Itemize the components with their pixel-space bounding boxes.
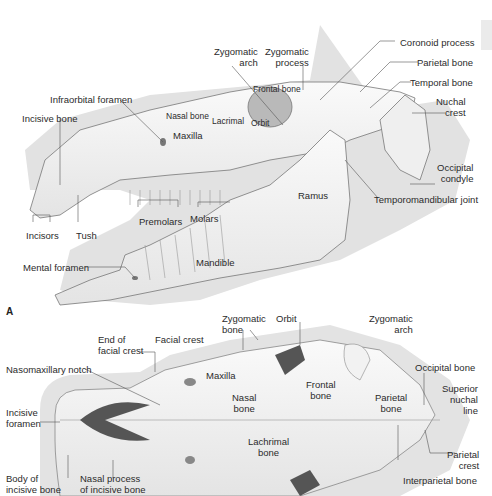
panel-label-a: A bbox=[6, 306, 13, 317]
label-tush: Tush bbox=[76, 230, 97, 241]
label-ramus: Ramus bbox=[298, 190, 328, 201]
label-incisive-foramen: Incisive foramen bbox=[6, 407, 41, 429]
label-parietal-bone: Parietal bone bbox=[417, 57, 473, 68]
label-body-of-incisive-bone: Body of incisive bone bbox=[6, 473, 61, 495]
label-incisive-bone: Incisive bone bbox=[22, 113, 77, 124]
label-occipital-bone: Occipital bone bbox=[415, 362, 475, 373]
label-nasomaxillary-notch: Nasomaxillary notch bbox=[6, 364, 92, 375]
label-zygomatic-process: Zygomatic process bbox=[265, 46, 309, 68]
label-nasal-bone-dorsal: Nasal bone bbox=[232, 392, 256, 414]
label-end-of-facial-crest: End of facial crest bbox=[98, 334, 143, 356]
label-temporal-bone: Temporal bone bbox=[410, 77, 473, 88]
label-lacrimal: Lacrimal bbox=[212, 116, 244, 127]
label-infraorbital-foramen: Infraorbital foramen bbox=[50, 94, 132, 105]
label-temporomandibular-joint: Temporomandibular joint bbox=[374, 194, 478, 205]
label-incisors: Incisors bbox=[26, 230, 59, 241]
label-coronoid-process: Coronoid process bbox=[400, 37, 474, 48]
label-superior-nuchal-line: Superior nuchal line bbox=[442, 383, 478, 416]
label-orbit-dorsal: Orbit bbox=[276, 313, 297, 324]
label-lachrimal-bone: Lachrimal bone bbox=[248, 436, 289, 458]
label-occipital-condyle: Occipital condyle bbox=[437, 162, 473, 184]
label-frontal-bone-dorsal: Frontal bone bbox=[306, 379, 336, 401]
label-mental-foramen: Mental foramen bbox=[23, 262, 89, 273]
label-nuchal-crest: Nuchal crest bbox=[436, 96, 466, 118]
label-zygomatic-bone: Zygomatic bone bbox=[222, 313, 266, 335]
label-mandible: Mandible bbox=[196, 257, 235, 268]
label-molars: Molars bbox=[190, 213, 219, 224]
label-zygomatic-arch: Zygomatic arch bbox=[214, 46, 258, 68]
label-zygomatic-arch-dorsal: Zygomatic arch bbox=[369, 313, 413, 335]
label-maxilla: Maxilla bbox=[173, 130, 203, 141]
label-nasal-bone: Nasal bone bbox=[166, 111, 209, 122]
label-frontal-bone: Frontal bone bbox=[253, 84, 301, 95]
label-premolars: Premolars bbox=[139, 216, 182, 227]
label-interparietal-bone: Interparietal bone bbox=[403, 475, 477, 486]
label-facial-crest: Facial crest bbox=[155, 334, 204, 345]
label-parietal-crest: Parietal crest bbox=[447, 449, 479, 471]
label-maxilla-dorsal: Maxilla bbox=[206, 370, 236, 381]
label-orbit: Orbit bbox=[251, 118, 269, 129]
label-nasal-process-of-incisive-bone: Nasal process of incisive bone bbox=[80, 473, 145, 495]
label-parietal-bone-dorsal: Parietal bone bbox=[375, 392, 407, 414]
skull-illustration bbox=[0, 0, 492, 496]
